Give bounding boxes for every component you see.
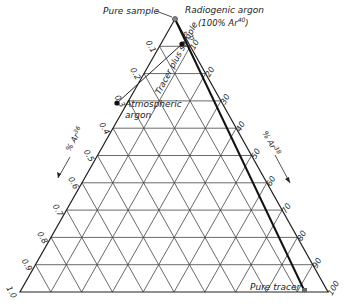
left-tick-label: 1.0 (4, 285, 18, 301)
grid-line (51, 46, 191, 292)
grid-line (174, 156, 252, 293)
right-tick-label: 20 (204, 65, 217, 78)
left-axis-ticks: 0.10.20.30.40.50.60.70.80.91.0 (4, 39, 158, 300)
right-tick-label: 50 (249, 147, 262, 160)
right-tick-label: 60 (265, 174, 278, 187)
ternary-diagram: Pure sample Radiogenic argon (100% Ar40)… (0, 0, 350, 307)
grid-line (67, 210, 113, 292)
radiogenic-sublabel: (100% Ar40) (198, 16, 249, 28)
grid-line (36, 265, 51, 292)
pure-tracer-label: Pure tracer (250, 282, 301, 292)
atmospheric-label: Atmospheric (124, 99, 182, 109)
pure-sample-label: Pure sample (103, 6, 159, 16)
argon-label: argon (125, 110, 151, 120)
right-tick-label: 100 (326, 279, 341, 297)
right-axis-ticks: 102030405060708090100 (188, 38, 341, 297)
right-tick-label: 70 (280, 202, 293, 215)
right-tick-label: 90 (311, 256, 324, 269)
grid-line (112, 101, 220, 292)
right-axis-title: % Ar38 (260, 129, 283, 158)
right-arrowhead-icon (285, 177, 290, 183)
grid-line (236, 210, 283, 292)
grid-line (98, 156, 175, 293)
radiogenic-point (173, 17, 178, 22)
grid-line (160, 46, 298, 292)
grid-lines (36, 46, 313, 292)
radiogenic-label: Radiogenic argon (185, 5, 264, 15)
left-axis-title: % Ar36 (62, 124, 85, 153)
right-tick-label: 40 (234, 120, 247, 133)
right-tick-label: 30 (219, 93, 232, 106)
right-tick-label: 80 (295, 229, 308, 242)
left-arrowhead-icon (57, 172, 61, 178)
pure-tracer-point (302, 288, 307, 292)
grid-line (129, 101, 236, 292)
